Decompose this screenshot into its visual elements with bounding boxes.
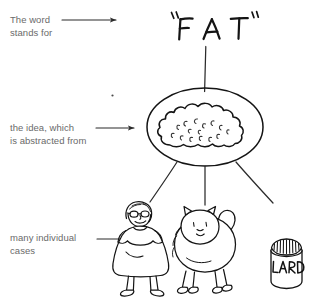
connector-to-person	[150, 162, 177, 202]
ink-speck	[111, 94, 113, 96]
letter-t-glyph	[231, 18, 248, 39]
concept-cloud-blob	[158, 103, 244, 146]
letter-f-glyph	[179, 18, 192, 39]
connector-to-lard	[236, 162, 273, 203]
connectors-concept-to-instances	[150, 162, 273, 205]
symbol-word-fat	[172, 12, 259, 40]
close-quote-mark	[252, 12, 258, 18]
connector-word-to-concept	[205, 47, 206, 92]
letter-a-glyph	[204, 19, 220, 39]
diagram-canvas: The word stands for the idea, which is a…	[0, 0, 309, 303]
drawing-layer	[0, 0, 309, 303]
open-quote-mark	[172, 12, 179, 18]
instance-fat-cat	[172, 207, 235, 294]
instance-fat-person	[113, 202, 169, 296]
